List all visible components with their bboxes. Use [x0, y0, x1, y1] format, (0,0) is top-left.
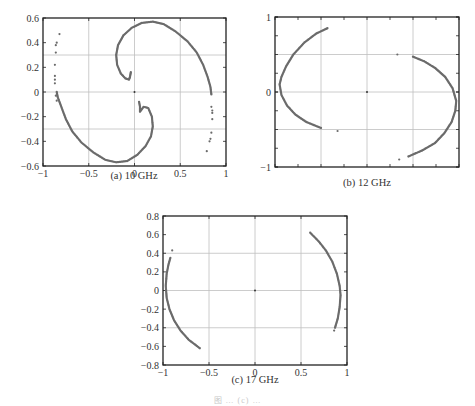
y-tick-label: −0.6	[141, 341, 159, 352]
chart-caption-c: (c) 17 GHz	[215, 374, 295, 385]
figure-caption: 图 … (c) …	[0, 394, 475, 405]
y-tick-label: 0.4	[147, 248, 160, 259]
series-right-arc	[309, 232, 342, 329]
x-tick-label: 1	[345, 367, 350, 378]
y-tick-label: 0.8	[147, 211, 160, 222]
origin-marker	[254, 290, 256, 292]
y-tick-label: −0.4	[141, 322, 159, 333]
y-tick-label: 0.6	[147, 229, 160, 240]
y-tick-label: 0	[154, 285, 159, 296]
x-tick-label: −1	[158, 367, 169, 378]
scatter-plot-c: −1−0.500.51−0.8−0.6−0.4−0.200.20.40.60.8	[0, 0, 475, 406]
y-tick-label: 0.2	[147, 266, 160, 277]
x-tick-label: 0.5	[295, 367, 308, 378]
y-tick-label: −0.8	[141, 360, 159, 371]
series-left-arc	[165, 257, 201, 350]
y-tick-label: −0.2	[141, 304, 159, 315]
